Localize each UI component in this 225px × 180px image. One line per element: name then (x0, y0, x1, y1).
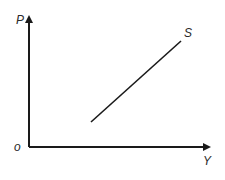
origin-label: o (14, 140, 21, 154)
x-axis-label: Y (203, 154, 212, 168)
curve-label: S (184, 26, 192, 40)
y-axis-label: P (16, 13, 24, 27)
supply-curve (91, 41, 181, 122)
chart: P S o Y (0, 0, 225, 180)
